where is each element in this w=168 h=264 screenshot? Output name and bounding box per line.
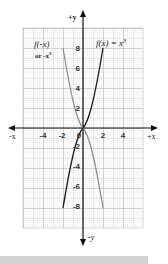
- fnegx-label-text: f(-x): [34, 39, 50, 49]
- y-tick-8: 8: [76, 44, 81, 53]
- arrow-up-icon: [80, 10, 86, 17]
- y-tick-minus-8: -8: [73, 202, 81, 211]
- y-tick-minus-4: -4: [73, 162, 81, 171]
- x-tick-4: 4: [121, 131, 126, 140]
- label-minus-x: -x: [9, 132, 16, 141]
- arrow-left-icon: [8, 125, 15, 131]
- y-tick-4: 4: [76, 84, 81, 93]
- arrow-down-icon: [80, 239, 86, 246]
- x-tick-minus-2: -2: [58, 131, 66, 140]
- x-tick-2: 2: [101, 131, 106, 140]
- x-tick-0: 0: [77, 131, 82, 140]
- fx-superscript: 3: [122, 38, 126, 44]
- annotation-f-x: f(x) = x3: [96, 38, 126, 48]
- arrow-right-icon: [151, 125, 158, 131]
- y-tick-2: 2: [76, 104, 81, 113]
- cubic-function-chart: +y -y +x -x -4 -2 0 2 4 8 6 4 2 -2 -4 -6…: [0, 0, 168, 264]
- y-tick-6: 6: [76, 64, 81, 73]
- label-minus-y: -y: [88, 233, 95, 242]
- x-tick-minus-4: -4: [39, 131, 47, 140]
- bottom-edge-bar: [0, 256, 148, 264]
- fx-label-text: f(x) = x: [96, 38, 123, 48]
- label-plus-x: +x: [147, 132, 156, 141]
- y-tick-minus-2: -2: [73, 142, 81, 151]
- fnegx-or-text: or -x: [35, 52, 50, 60]
- label-plus-y: +y: [68, 13, 77, 22]
- y-tick-minus-6: -6: [73, 182, 81, 191]
- svg-text:f(x) = x3: f(x) = x3: [96, 38, 126, 48]
